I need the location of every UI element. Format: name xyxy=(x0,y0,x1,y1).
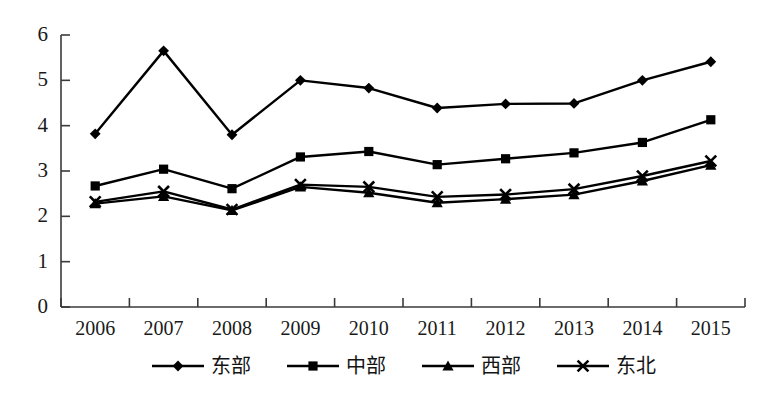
marker-square xyxy=(501,154,510,163)
y-tick-label: 4 xyxy=(8,115,48,136)
marker-square xyxy=(638,138,647,147)
marker-diamond xyxy=(363,83,374,94)
y-tick-label: 6 xyxy=(8,24,48,45)
marker-square xyxy=(706,115,715,124)
x-tick-label: 2014 xyxy=(608,318,676,338)
series-1 xyxy=(90,45,716,140)
legend-item-2[interactable]: 中部 xyxy=(285,356,386,376)
marker-diamond xyxy=(569,98,580,109)
marker-diamond xyxy=(500,99,511,110)
legend-item-4[interactable]: 东北 xyxy=(555,356,656,376)
legend-label: 中部 xyxy=(346,356,386,376)
y-tick-label: 5 xyxy=(8,69,48,90)
x-tick-label: 2009 xyxy=(266,318,334,338)
legend-item-3[interactable]: 西部 xyxy=(420,356,521,376)
legend-label: 西部 xyxy=(481,356,521,376)
x-tick-label: 2007 xyxy=(129,318,197,338)
y-tick-label: 3 xyxy=(8,160,48,181)
x-tick-label: 2010 xyxy=(335,318,403,338)
legend-label: 东北 xyxy=(616,356,656,376)
legend-key-square-icon xyxy=(285,356,341,376)
marker-diamond xyxy=(432,103,443,114)
y-tick-label: 1 xyxy=(8,251,48,272)
marker-diamond xyxy=(705,56,716,67)
line-chart: 0123456 20062007200820092010201120122013… xyxy=(0,0,769,418)
x-tick-label: 2008 xyxy=(198,318,266,338)
chart-series xyxy=(90,45,717,215)
series-3 xyxy=(90,160,717,216)
y-tick-label: 0 xyxy=(8,296,48,317)
marker-square xyxy=(364,147,373,156)
marker-square xyxy=(91,181,100,190)
series-2 xyxy=(91,115,716,193)
y-tick-label: 2 xyxy=(8,205,48,226)
x-tick-label: 2015 xyxy=(677,318,745,338)
x-tick-label: 2013 xyxy=(540,318,608,338)
marker-square xyxy=(308,361,317,370)
series-line xyxy=(95,165,711,210)
legend-item-1[interactable]: 东部 xyxy=(150,356,251,376)
x-tick-label: 2012 xyxy=(471,318,539,338)
x-tick-label: 2011 xyxy=(403,318,471,338)
marker-square xyxy=(569,148,578,157)
x-tick-label: 2006 xyxy=(61,318,129,338)
chart-legend: 东部中部西部东北 xyxy=(61,349,745,383)
series-line xyxy=(95,51,711,135)
legend-key-triangle-icon xyxy=(420,356,476,376)
series-line xyxy=(95,120,711,189)
marker-square xyxy=(159,165,168,174)
marker-diamond xyxy=(637,75,648,86)
legend-label: 东部 xyxy=(211,356,251,376)
marker-square xyxy=(433,160,442,169)
legend-key-diamond-icon xyxy=(150,356,206,376)
marker-diamond xyxy=(173,361,184,372)
marker-square xyxy=(296,152,305,161)
legend-key-x-icon xyxy=(555,356,611,376)
marker-square xyxy=(227,184,236,193)
